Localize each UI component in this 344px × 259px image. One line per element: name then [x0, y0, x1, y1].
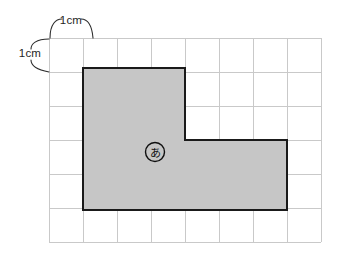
- shape-label-text: あ: [150, 147, 161, 160]
- grid-figure-svg: あ 1cm 1cm: [0, 0, 344, 259]
- left-unit-label: 1cm: [19, 47, 41, 59]
- top-unit-label: 1cm: [60, 14, 82, 26]
- figure-root: あ 1cm 1cm: [0, 0, 344, 259]
